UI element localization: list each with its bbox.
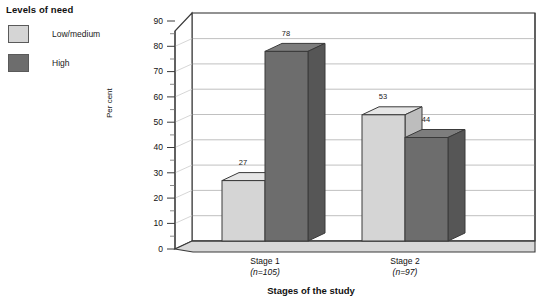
- plot-left-wall: [175, 13, 192, 249]
- category-n: (n=97): [345, 267, 465, 278]
- x-category-label-stage-2: Stage 2 (n=97): [345, 256, 465, 278]
- plot-floor: [175, 241, 535, 252]
- y-tick-label: 60: [141, 92, 163, 102]
- y-tick-label: 10: [141, 218, 163, 228]
- value-label-stage1-high: 78: [271, 29, 301, 38]
- y-axis-minor-ticks: [170, 34, 175, 237]
- y-tick-label: 40: [141, 142, 163, 152]
- category-name: Stage 1: [205, 256, 325, 267]
- category-n: (n=105): [205, 267, 325, 278]
- bar-stage1-high: [265, 43, 325, 241]
- x-axis-title: Stages of the study: [0, 285, 548, 296]
- bar-chart: 0 10 20 30 40 50 60 70 80 90 Per cent 27…: [0, 0, 548, 303]
- y-tick-label: 20: [141, 193, 163, 203]
- y-tick-label: 50: [141, 117, 163, 127]
- y-tick-label: 0: [141, 244, 163, 254]
- y-tick-label: 70: [141, 66, 163, 76]
- value-label-stage1-low-medium: 27: [228, 158, 258, 167]
- bar-stage2-high: [405, 130, 465, 242]
- value-label-stage2-low-medium: 53: [368, 92, 398, 101]
- category-name: Stage 2: [345, 256, 465, 267]
- y-tick-label: 80: [141, 41, 163, 51]
- y-tick-label: 90: [141, 16, 163, 26]
- x-category-label-stage-1: Stage 1 (n=105): [205, 256, 325, 278]
- y-axis-title: Per cent: [105, 58, 119, 118]
- y-tick-label: 30: [141, 168, 163, 178]
- value-label-stage2-high: 44: [411, 115, 441, 124]
